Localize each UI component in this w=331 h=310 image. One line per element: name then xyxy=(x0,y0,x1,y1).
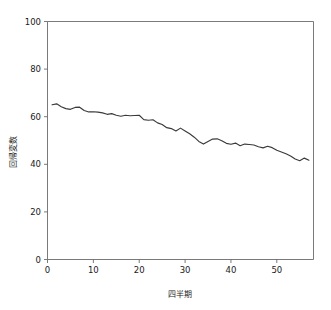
chart-background xyxy=(0,0,331,310)
x-axis-title: 四半期 xyxy=(168,289,192,299)
x-tick-label: 10 xyxy=(88,265,99,275)
y-tick-label: 100 xyxy=(25,17,41,27)
y-tick-label: 80 xyxy=(30,64,41,74)
y-tick-label: 60 xyxy=(30,112,41,122)
y-tick-label: 40 xyxy=(30,159,41,169)
x-tick-label: 40 xyxy=(226,265,237,275)
x-tick-label: 30 xyxy=(180,265,191,275)
y-tick-label: 0 xyxy=(36,255,41,265)
y-tick-label: 20 xyxy=(30,207,41,217)
y-axis-title: 回帰変数 xyxy=(8,136,18,168)
line-chart: 020406080100 01020304050 四半期 回帰変数 xyxy=(0,0,331,310)
x-tick-label: 20 xyxy=(134,265,145,275)
x-tick-label: 0 xyxy=(45,265,50,275)
x-tick-label: 50 xyxy=(271,265,282,275)
chart-figure: 020406080100 01020304050 四半期 回帰変数 xyxy=(0,0,331,310)
